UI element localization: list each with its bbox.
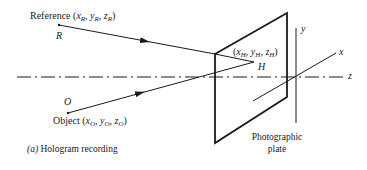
plate-label: Photographic plate [242,133,312,154]
figure-caption: (a) Hologram recording [27,145,118,155]
hologram-point-coords: (xH, yH, zH) [233,47,278,59]
reference-point [58,24,60,26]
z-axis-label: z [348,71,352,81]
object-label: Object (xO, yO, zO) [53,116,127,128]
reference-label: Reference (xR, yR, zR) [30,11,115,23]
y-axis-label: y [301,24,305,34]
reference-point-label: R [56,31,62,41]
hologram-point-label: H [258,62,265,72]
reference-beam [59,25,215,54]
object-point [67,112,69,114]
object-beam [68,62,254,113]
photographic-plate [215,13,287,143]
x-axis-label: x [339,47,343,57]
hologram-recording-diagram: Reference (xR, yR, zR) R O Object (xO, y… [0,0,367,170]
object-point-label: O [64,97,71,107]
